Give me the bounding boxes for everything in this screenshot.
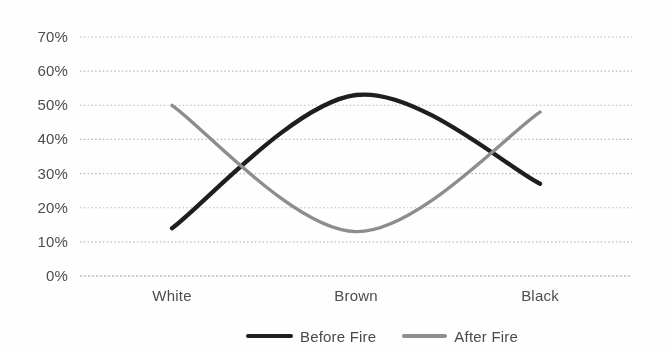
x-axis-category-label: White [117, 288, 227, 303]
legend-swatch-before-fire [246, 334, 293, 339]
legend-item-after-fire: After Fire [402, 328, 518, 345]
legend-label: After Fire [454, 328, 518, 345]
x-axis-category-label: Black [485, 288, 595, 303]
y-axis-tick-label: 50% [0, 97, 68, 113]
legend-swatch-after-fire [402, 334, 447, 338]
chart-legend: Before FireAfter Fire [84, 327, 662, 345]
y-axis-tick-label: 30% [0, 166, 68, 182]
y-axis-tick-label: 0% [0, 268, 68, 284]
line-chart: 0%10%20%30%40%50%60%70% WhiteBrownBlack … [0, 0, 669, 354]
y-axis-tick-label: 40% [0, 131, 68, 147]
y-axis-tick-label: 60% [0, 63, 68, 79]
x-axis-category-label: Brown [301, 288, 411, 303]
y-axis-tick-label: 20% [0, 200, 68, 216]
y-axis-tick-label: 70% [0, 29, 68, 45]
legend-item-before-fire: Before Fire [246, 328, 376, 345]
y-axis-tick-label: 10% [0, 234, 68, 250]
before-fire-line [172, 95, 540, 229]
legend-label: Before Fire [300, 328, 376, 345]
after-fire-line [172, 105, 540, 231]
